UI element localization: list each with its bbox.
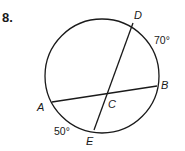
- point-label-d: D: [134, 9, 142, 21]
- point-label-b: B: [161, 79, 168, 91]
- point-label-a: A: [36, 101, 44, 113]
- point-label-c: C: [108, 98, 116, 110]
- arc-measure-ae: 50°: [54, 125, 70, 137]
- circle-diagram: D B A C E 70° 50°: [0, 0, 185, 151]
- chord-de: [94, 23, 133, 130]
- point-label-e: E: [86, 135, 94, 147]
- arc-measure-db: 70°: [154, 34, 170, 46]
- circle: [45, 19, 159, 133]
